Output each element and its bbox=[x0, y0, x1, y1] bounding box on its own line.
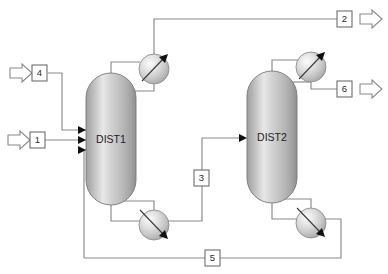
stream-tag-1-text: 1 bbox=[35, 134, 40, 145]
stream-tag-2-text: 2 bbox=[342, 13, 347, 24]
stream-tag-4-text: 4 bbox=[37, 67, 42, 78]
unit-dist2[interactable]: DIST2 bbox=[247, 71, 297, 203]
stream-tag-3[interactable]: 3 bbox=[194, 170, 209, 186]
exchanger-cond2[interactable] bbox=[296, 52, 326, 82]
port-outlet-2[interactable] bbox=[360, 10, 382, 28]
outlet-port-arrow-6 bbox=[360, 80, 382, 98]
pfd-canvas: DIST1 DIST2 bbox=[0, 0, 388, 274]
exchanger-reb2[interactable] bbox=[296, 208, 326, 238]
stream-line-2 bbox=[154, 19, 337, 55]
dist2-label: DIST2 bbox=[257, 131, 287, 143]
exchanger-reb1[interactable] bbox=[139, 210, 169, 240]
port-inlet-1[interactable] bbox=[8, 131, 30, 149]
dist1-inlet-arrow-top bbox=[78, 126, 86, 134]
stream-tag-2[interactable]: 2 bbox=[337, 11, 352, 27]
stream-line-6 bbox=[311, 82, 337, 89]
dist1-overhead-line bbox=[111, 62, 140, 73]
dist1-bottoms-line bbox=[111, 205, 140, 221]
port-inlet-4[interactable] bbox=[10, 64, 32, 82]
dist1-label: DIST1 bbox=[96, 133, 126, 145]
outlet-port-arrow-2 bbox=[360, 10, 382, 28]
stream-tag-5-text: 5 bbox=[210, 252, 215, 263]
inlet-port-arrow-1 bbox=[8, 131, 30, 149]
port-outlet-6[interactable] bbox=[360, 80, 382, 98]
stream-tag-6-text: 6 bbox=[342, 83, 347, 94]
stream-tag-5[interactable]: 5 bbox=[205, 250, 220, 266]
dist2-bottoms-line bbox=[272, 203, 298, 219]
stream-tag-3-text: 3 bbox=[199, 172, 204, 183]
stream-tag-6[interactable]: 6 bbox=[337, 81, 352, 97]
stream-tag-4[interactable]: 4 bbox=[32, 65, 47, 81]
inlet-port-arrow-4 bbox=[10, 64, 32, 82]
dist2-overhead-line bbox=[272, 60, 298, 71]
unit-dist1[interactable]: DIST1 bbox=[86, 73, 136, 205]
dist2-inlet-arrows bbox=[239, 134, 247, 142]
dist2-inlet-arrow bbox=[239, 134, 247, 142]
exchanger-cond1[interactable] bbox=[139, 54, 169, 84]
dist1-inlet-arrows bbox=[78, 126, 86, 154]
dist1-inlet-arrow-mid bbox=[78, 136, 86, 144]
stream-tag-1[interactable]: 1 bbox=[30, 132, 45, 148]
dist1-inlet-arrow-bottom bbox=[78, 146, 86, 154]
process-flow-diagram: DIST1 DIST2 bbox=[0, 0, 388, 274]
